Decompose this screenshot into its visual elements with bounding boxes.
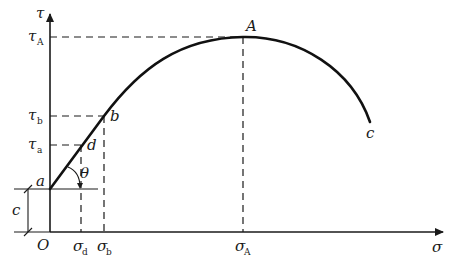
- cohesion-label: c: [12, 201, 21, 219]
- taua-sub: a: [37, 145, 43, 155]
- point-a-label: a: [36, 172, 45, 190]
- sigmad-sub: d: [82, 247, 88, 257]
- tauA-label: τ: [28, 27, 37, 45]
- tauA-sub: A: [36, 37, 44, 47]
- theta-label: θ: [80, 164, 89, 182]
- point-c-label: c: [366, 124, 375, 142]
- strength-curve: [50, 37, 370, 189]
- point-A-label: A: [244, 17, 257, 35]
- origin-label: O: [37, 236, 49, 254]
- x-axis-label: σ: [432, 238, 443, 256]
- taub-sub: b: [37, 116, 43, 126]
- point-d-label: d: [87, 136, 97, 154]
- sigmab-sub: b: [106, 247, 112, 257]
- diagram-canvas: τ σ O τ A τ b τ a σ d σ b σ A a b d A c …: [0, 0, 458, 278]
- sigmaA-sub: A: [243, 247, 251, 257]
- y-axis-label: τ: [36, 4, 45, 22]
- taua-label: τ: [28, 135, 37, 153]
- theta-arrowhead: [77, 183, 83, 189]
- point-b-label: b: [110, 107, 120, 125]
- taub-label: τ: [28, 106, 37, 124]
